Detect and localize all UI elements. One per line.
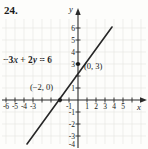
y-axis — [75, 8, 80, 148]
y-tick-label-1: 1 — [64, 84, 75, 93]
point-marker-y-intercept — [76, 62, 80, 66]
y-tick-label--2: -2 — [64, 120, 75, 129]
point-label-y-intercept: (0, 3) — [84, 61, 102, 71]
x-tick-label--3: -3 — [27, 102, 39, 111]
y-tick-label--4: -4 — [64, 140, 75, 149]
x-tick-label-5: 5 — [117, 102, 129, 111]
y-tick-label-4: 4 — [64, 48, 75, 57]
y-tick-label-3: 3 — [64, 60, 75, 69]
y-axis-label: y — [69, 4, 73, 14]
point-marker-x-intercept — [58, 98, 62, 102]
graph-figure: 24. −3x + 2y = 6 — [0, 0, 148, 149]
point-label-x-intercept: (−2, 0) — [30, 82, 53, 92]
x-axis-label: x — [137, 102, 141, 112]
y-tick-label-5: 5 — [64, 36, 75, 45]
y-tick-label-6: 6 — [64, 24, 75, 33]
y-tick-label--1: -1 — [64, 108, 75, 117]
